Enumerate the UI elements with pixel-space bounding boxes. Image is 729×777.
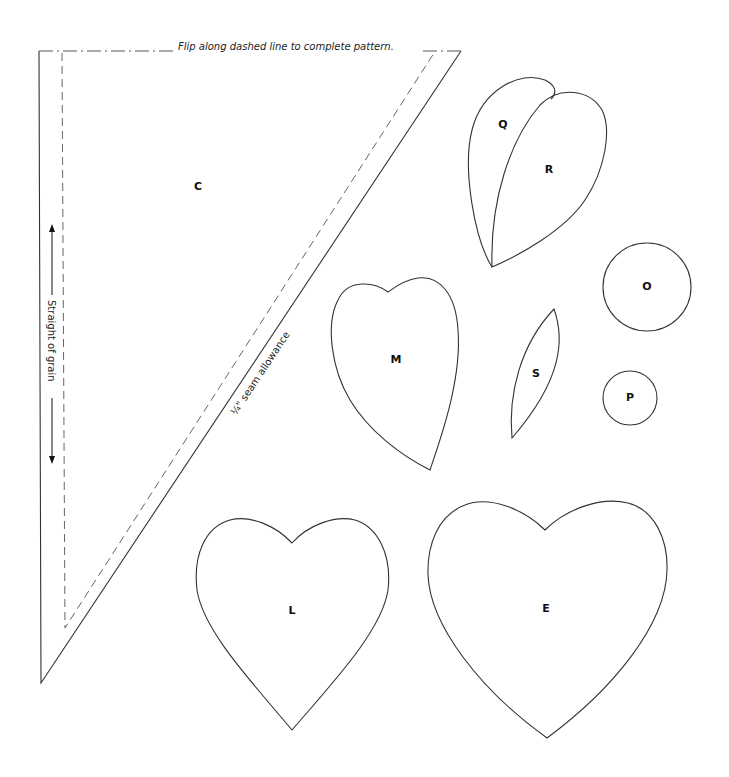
pattern-sheet: Flip along dashed line to complete patte…	[0, 0, 729, 777]
grain-label: Straight of grain	[46, 300, 57, 382]
piece-label-s: S	[532, 367, 540, 380]
cut-line	[39, 51, 461, 683]
piece-p: P	[603, 371, 657, 425]
piece-label-m: M	[391, 353, 402, 366]
piece-label-o: O	[642, 280, 651, 293]
seam-allowance-label: ¼" seam allowance	[229, 329, 292, 417]
piece-q: Q	[469, 77, 555, 267]
flip-instruction: Flip along dashed line to complete patte…	[178, 41, 394, 52]
piece-label-l: L	[288, 604, 295, 617]
piece-o: O	[603, 243, 691, 331]
piece-e: E	[428, 501, 667, 738]
piece-m: M	[331, 278, 458, 470]
piece-label-c: C	[194, 180, 202, 193]
piece-r: R	[492, 92, 607, 267]
piece-s: S	[511, 309, 559, 438]
piece-label-e: E	[542, 602, 550, 615]
grain-arrow: Straight of grain	[46, 228, 57, 460]
seam-line	[62, 53, 434, 628]
piece-label-p: P	[626, 391, 634, 404]
piece-l: L	[196, 519, 388, 730]
piece-label-r: R	[545, 163, 554, 176]
piece-label-q: Q	[498, 118, 507, 131]
